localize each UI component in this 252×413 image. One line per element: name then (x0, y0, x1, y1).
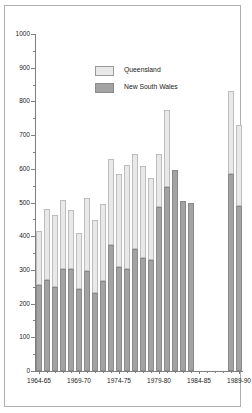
bar-stack (68, 34, 74, 371)
x-axis-major-tick (159, 371, 160, 374)
x-axis-minor-tick (223, 371, 224, 373)
y-axis-major-tick (31, 371, 35, 372)
y-axis-major-tick (31, 203, 35, 204)
legend-label-queensland: Queensland (124, 67, 161, 74)
x-axis-tick-label: 1989-90 (227, 378, 247, 385)
x-axis-minor-tick (207, 371, 208, 373)
bar-stack (36, 34, 42, 371)
x-axis-minor-tick (95, 371, 96, 373)
legend-item-new-south-wales: New South Wales (95, 81, 178, 94)
x-axis-minor-tick (87, 371, 88, 373)
x-axis-tick-label: 1974-75 (107, 378, 131, 385)
bar-segment-queensland (68, 210, 74, 268)
x-axis-minor-tick (103, 371, 104, 373)
y-axis-major-tick (31, 236, 35, 237)
y-axis-tick-label: 100 (19, 334, 30, 341)
bar-stack (52, 34, 58, 371)
legend-swatch-new-south-wales (95, 83, 114, 93)
bar-segment-new-south-wales (180, 201, 186, 371)
bar-segment-queensland (236, 125, 242, 207)
chart-legend: Queensland New South Wales (95, 64, 178, 98)
legend-swatch-queensland (95, 66, 114, 76)
x-axis-minor-tick (231, 371, 232, 373)
bar-segment-new-south-wales (140, 258, 146, 371)
y-axis-tick-label: 0 (26, 368, 30, 375)
bar-segment-queensland (148, 178, 154, 261)
bar-segment-queensland (92, 220, 98, 293)
y-axis-minor-tick (33, 85, 35, 86)
bar-stack (228, 34, 234, 371)
y-axis-tick-label: 600 (19, 166, 30, 173)
x-axis-major-tick (79, 371, 80, 374)
bar-segment-new-south-wales (132, 249, 138, 371)
x-axis-minor-tick (111, 371, 112, 373)
y-axis-tick-label: 400 (19, 233, 30, 240)
bar-stack (60, 34, 66, 371)
x-axis-major-tick (199, 371, 200, 374)
bar-segment-new-south-wales (116, 267, 122, 371)
x-axis-minor-tick (175, 371, 176, 373)
bar-segment-new-south-wales (100, 281, 106, 371)
y-axis-minor-tick (33, 354, 35, 355)
y-axis-tick-label: 800 (19, 98, 30, 105)
x-axis-minor-tick (47, 371, 48, 373)
y-axis-major-tick (31, 34, 35, 35)
y-axis-minor-tick (33, 253, 35, 254)
x-axis-minor-tick (183, 371, 184, 373)
x-axis-major-tick (119, 371, 120, 374)
x-axis-minor-tick (55, 371, 56, 373)
x-axis-line (35, 371, 243, 372)
y-axis-major-tick (31, 68, 35, 69)
x-axis-minor-tick (63, 371, 64, 373)
bar-segment-new-south-wales (92, 293, 98, 371)
x-axis-tick-label: 1969-70 (67, 378, 91, 385)
bar-segment-new-south-wales (236, 206, 242, 371)
bar-segment-new-south-wales (164, 187, 170, 371)
bar-segment-new-south-wales (172, 170, 178, 371)
bar-segment-new-south-wales (148, 260, 154, 371)
bar-segment-queensland (84, 198, 90, 271)
bar-segment-new-south-wales (44, 280, 50, 371)
y-axis-minor-tick (33, 51, 35, 52)
bar-segment-new-south-wales (124, 269, 130, 371)
legend-item-queensland: Queensland (95, 64, 178, 77)
y-axis-minor-tick (33, 287, 35, 288)
bar-segment-queensland (76, 233, 82, 289)
bar-segment-queensland (164, 110, 170, 187)
y-axis-minor-tick (33, 219, 35, 220)
x-axis-minor-tick (71, 371, 72, 373)
bar-stack (188, 34, 194, 371)
legend-label-new-south-wales: New South Wales (124, 84, 178, 91)
bar-segment-queensland (52, 215, 58, 287)
x-axis-minor-tick (167, 371, 168, 373)
bar-segment-new-south-wales (108, 245, 114, 371)
y-axis-minor-tick (33, 186, 35, 187)
bar-segment-new-south-wales (84, 271, 90, 371)
bar-segment-queensland (228, 91, 234, 174)
y-axis-major-tick (31, 169, 35, 170)
y-axis-major-tick (31, 337, 35, 338)
x-axis-minor-tick (215, 371, 216, 373)
y-axis-major-tick (31, 304, 35, 305)
bar-stack (44, 34, 50, 371)
bar-segment-queensland (132, 154, 138, 248)
bar-segment-new-south-wales (52, 287, 58, 371)
y-axis-major-tick (31, 101, 35, 102)
bar-segment-queensland (36, 231, 42, 285)
bar-segment-new-south-wales (76, 289, 82, 371)
y-axis-tick-label: 300 (19, 267, 30, 274)
bar-segment-queensland (100, 204, 106, 280)
plot-area: 01002003004005006007008009001000 1964-65… (35, 34, 243, 371)
bar-segment-queensland (140, 166, 146, 258)
bar-segment-new-south-wales (60, 269, 66, 371)
y-axis-major-tick (31, 270, 35, 271)
bar-segment-queensland (60, 200, 66, 269)
y-axis-tick-label: 500 (19, 199, 30, 206)
bar-segment-new-south-wales (188, 203, 194, 372)
x-axis-minor-tick (191, 371, 192, 373)
y-axis-minor-tick (33, 118, 35, 119)
x-axis-major-tick (239, 371, 240, 374)
x-axis-minor-tick (151, 371, 152, 373)
bar-segment-queensland (116, 174, 122, 267)
x-axis-minor-tick (143, 371, 144, 373)
